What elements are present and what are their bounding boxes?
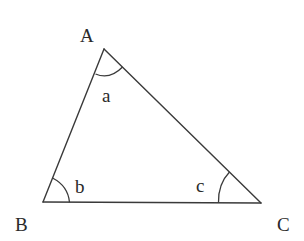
angle-arc-b — [53, 178, 70, 202]
angle-label-b: b — [75, 176, 85, 197]
side-ac — [104, 49, 261, 203]
angle-label-c: c — [196, 175, 204, 196]
vertex-label-a: A — [80, 25, 94, 46]
triangle-diagram: A B C a b c — [0, 0, 304, 241]
angle-arc-c — [218, 172, 229, 203]
angle-label-a: a — [102, 85, 111, 106]
side-ab — [43, 49, 104, 202]
vertex-label-b: B — [15, 214, 28, 235]
angle-arc-a — [96, 67, 123, 76]
vertex-label-c: C — [277, 214, 290, 235]
side-bc — [43, 202, 261, 203]
